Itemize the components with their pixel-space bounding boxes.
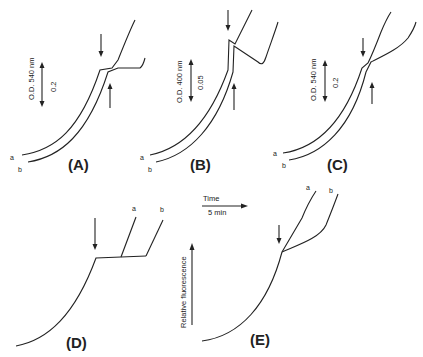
panel-d: a b (D) xyxy=(16,205,164,351)
figure-canvas: O.D. 540 nm 0.2 a b (A) O.D. 400 nm 0.05 xyxy=(0,0,423,357)
axis-label-c: O.D. 540 nm xyxy=(309,58,318,101)
trace-b xyxy=(282,194,338,252)
fluorescence-label: Relative fluorescence xyxy=(179,256,188,328)
trace-label-a: a xyxy=(273,150,277,157)
axis-label-a: O.D. 540 nm xyxy=(27,57,36,100)
trace-label-b: b xyxy=(148,166,152,173)
panel-label-b: (B) xyxy=(190,156,211,173)
panel-label-c: (C) xyxy=(327,156,348,173)
down-arrow-a-icon xyxy=(99,34,104,57)
down-arrow-e-icon xyxy=(277,225,282,244)
scale-bar-a xyxy=(40,62,45,107)
trace-label-b: b xyxy=(282,162,286,169)
panel-label-e: (E) xyxy=(250,331,270,348)
up-arrow-a-icon xyxy=(108,83,113,108)
trace-main xyxy=(16,256,146,346)
time-value: 5 min xyxy=(208,208,226,217)
fluorescence-axis: Relative fluorescence xyxy=(179,243,195,328)
down-arrow-b-icon xyxy=(226,10,231,31)
scale-bar-b xyxy=(189,59,194,102)
trace-b xyxy=(28,58,145,162)
down-arrow-c-icon xyxy=(361,38,366,57)
scale-label-c: 0.2 xyxy=(331,78,340,88)
time-scale: Time 5 min xyxy=(202,194,248,217)
trace-label-a: a xyxy=(10,154,14,161)
trace-label-a: a xyxy=(140,154,144,161)
trace-label-b: b xyxy=(160,206,164,213)
scale-label-b: 0.05 xyxy=(196,75,205,90)
scale-bar-c xyxy=(323,60,328,102)
trace-label-a: a xyxy=(306,184,310,191)
down-arrow-d-icon xyxy=(93,218,98,250)
panel-label-d: (D) xyxy=(66,334,87,351)
trace-main xyxy=(202,252,282,341)
trace-a xyxy=(22,20,135,155)
trace-a xyxy=(282,191,316,252)
trace-label-b: b xyxy=(18,166,22,173)
trace-label-b: b xyxy=(329,187,333,194)
up-arrow-b-icon xyxy=(232,83,237,110)
up-arrow-c-icon xyxy=(370,82,375,104)
time-title: Time xyxy=(203,194,219,203)
panel-b: O.D. 400 nm 0.05 a b (B) xyxy=(140,10,278,173)
trace-a xyxy=(121,217,136,257)
scale-label-a: 0.2 xyxy=(49,82,58,92)
panel-a: O.D. 540 nm 0.2 a b (A) xyxy=(10,20,145,173)
panel-label-a: (A) xyxy=(68,156,89,173)
trace-label-a: a xyxy=(132,205,136,212)
axis-label-b: O.D. 400 nm xyxy=(175,60,184,103)
panel-c: O.D. 540 nm 0.2 a b (C) xyxy=(273,12,416,173)
trace-b xyxy=(146,220,163,256)
